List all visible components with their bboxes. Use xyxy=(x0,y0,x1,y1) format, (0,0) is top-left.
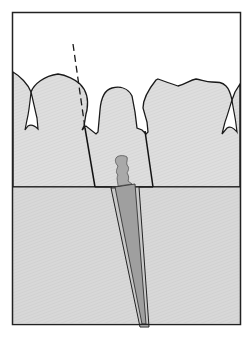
dental-post-diagram xyxy=(0,0,249,356)
